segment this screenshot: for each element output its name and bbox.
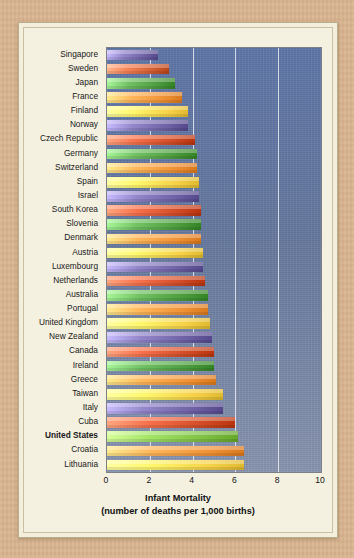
bar-highlight [107, 219, 201, 223]
bar-shadow [107, 227, 201, 230]
category-label: Greece [71, 374, 98, 384]
bar-shadow [107, 86, 175, 89]
bar-new-zealand [107, 332, 212, 343]
bar-shadow [107, 411, 223, 414]
bar-finland [107, 106, 188, 117]
bar-south-korea [107, 205, 201, 216]
bar-highlight [107, 106, 188, 110]
bar-portugal [107, 304, 208, 315]
bar-greece [107, 375, 216, 386]
bar-highlight [107, 262, 203, 266]
bar-highlight [107, 347, 214, 351]
category-label: Singapore [60, 49, 98, 59]
bar-shadow [107, 425, 235, 428]
bar-taiwan [107, 389, 223, 400]
bar-australia [107, 290, 208, 301]
bar-highlight [107, 78, 175, 82]
bar-shadow [107, 269, 203, 272]
bar-netherlands [107, 276, 205, 287]
bar-highlight [107, 248, 203, 252]
category-label: Lithuania [64, 459, 98, 469]
bar-austria [107, 248, 203, 259]
gridline [235, 48, 236, 472]
bar-highlight [107, 191, 199, 195]
bar-croatia [107, 446, 244, 457]
bar-highlight [107, 163, 197, 167]
bar-shadow [107, 312, 208, 315]
bar-shadow [107, 156, 197, 159]
bar-shadow [107, 354, 214, 357]
category-label: Austria [72, 247, 98, 257]
bar-highlight [107, 361, 214, 365]
bar-france [107, 92, 182, 103]
bar-highlight [107, 64, 169, 68]
category-label: Israel [78, 190, 98, 200]
bar-shadow [107, 382, 216, 385]
bar-cuba [107, 417, 235, 428]
bar-shadow [107, 340, 212, 343]
bar-highlight [107, 50, 158, 54]
category-label: Switzerland [55, 162, 98, 172]
bar-japan [107, 78, 175, 89]
x-tick-label: 4 [189, 475, 194, 486]
bar-ireland [107, 361, 214, 372]
axis-title: Infant Mortality (number of deaths per 1… [24, 492, 332, 517]
bar-highlight [107, 92, 182, 96]
category-label: Cuba [78, 416, 98, 426]
bar-highlight [107, 149, 197, 153]
bar-highlight [107, 290, 208, 294]
bar-shadow [107, 170, 197, 173]
category-label: Canada [69, 345, 98, 355]
category-label: Spain [77, 176, 98, 186]
category-label: France [72, 91, 98, 101]
category-label: Czech Republic [40, 133, 98, 143]
bar-united-kingdom [107, 318, 210, 329]
bar-singapore [107, 50, 158, 61]
x-axis-ticks: 0246810 [106, 475, 320, 487]
bar-shadow [107, 467, 244, 470]
bar-switzerland [107, 163, 197, 174]
bar-highlight [107, 304, 208, 308]
gridline [278, 48, 279, 472]
bar-shadow [107, 100, 182, 103]
bar-highlight [107, 375, 216, 379]
bar-shadow [107, 57, 158, 60]
category-label: Australia [66, 289, 98, 299]
bar-denmark [107, 234, 201, 245]
category-label: Denmark [64, 232, 98, 242]
bar-shadow [107, 213, 201, 216]
axis-title-line1: Infant Mortality [145, 493, 211, 503]
bar-highlight [107, 205, 201, 209]
bar-highlight [107, 318, 210, 322]
bar-shadow [107, 142, 195, 145]
bar-highlight [107, 276, 205, 280]
bar-shadow [107, 114, 188, 117]
bar-shadow [107, 368, 214, 371]
bar-shadow [107, 255, 203, 258]
bar-chart: SingaporeSwedenJapanFranceFinlandNorwayC… [24, 28, 332, 532]
bar-shadow [107, 439, 238, 442]
plot-area [106, 47, 322, 473]
axis-title-line2: (number of deaths per 1,000 births) [24, 505, 332, 518]
category-label: Sweden [68, 63, 98, 73]
bar-highlight [107, 332, 212, 336]
bar-italy [107, 403, 223, 414]
bar-highlight [107, 460, 244, 464]
figure-card: SingaporeSwedenJapanFranceFinlandNorwayC… [18, 22, 338, 538]
bar-highlight [107, 417, 235, 421]
bar-spain [107, 177, 199, 188]
x-tick-label: 10 [315, 475, 325, 486]
category-label: Portugal [67, 303, 98, 313]
bar-shadow [107, 283, 205, 286]
category-label: Italy [83, 402, 98, 412]
bar-united-states [107, 431, 238, 442]
category-label: Germany [64, 148, 98, 158]
x-tick-label: 6 [232, 475, 237, 486]
category-label: Luxembourg [52, 261, 98, 271]
category-label: Croatia [71, 444, 98, 454]
bar-shadow [107, 185, 199, 188]
category-labels-column: SingaporeSwedenJapanFranceFinlandNorwayC… [24, 47, 102, 471]
bar-shadow [107, 241, 201, 244]
bar-czech-republic [107, 135, 195, 146]
category-label: Taiwan [72, 388, 98, 398]
